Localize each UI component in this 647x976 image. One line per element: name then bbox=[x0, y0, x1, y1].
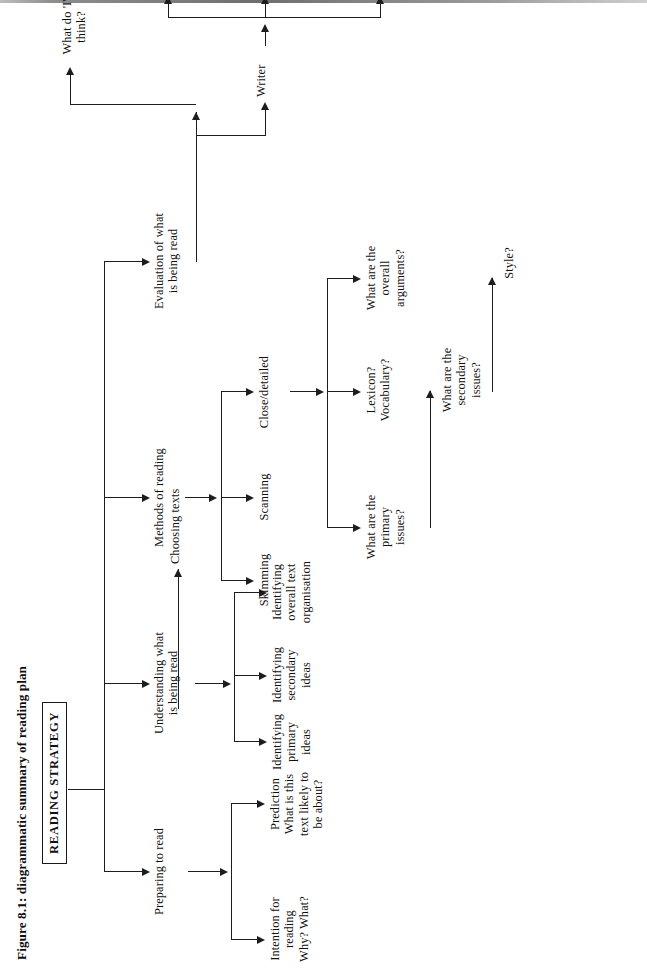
spine-evaluation-split bbox=[70, 104, 196, 105]
connector-close-overall-arguments bbox=[327, 278, 353, 279]
connector-methods-skimming bbox=[221, 580, 246, 581]
node-methods-of-reading: Methods of reading bbox=[152, 440, 166, 555]
figure-canvas: Figure 8.1: diagrammatic summary of read… bbox=[0, 0, 647, 976]
connector-root-preparing bbox=[104, 871, 142, 872]
connector-understanding-overall bbox=[234, 592, 259, 593]
connector-methods-scanning bbox=[221, 497, 246, 498]
arrow-writer-purpose bbox=[376, 0, 384, 4]
node-preparing-to-read: Preparing to read bbox=[152, 819, 166, 924]
arrow-close-stem bbox=[316, 388, 324, 396]
node-lexicon-vocabulary: Lexicon? Vocabulary? bbox=[364, 344, 393, 436]
node-identifying-overall-text-organisation: Identifying overall text organisation bbox=[270, 548, 313, 636]
connector-root-evaluation bbox=[104, 261, 142, 262]
connector-understanding-secondary bbox=[234, 675, 259, 676]
node-what-do-i-think: What do 'I' think? bbox=[60, 0, 89, 61]
connector-preparing-intention bbox=[231, 939, 257, 940]
arrow-preparing-intention bbox=[257, 936, 265, 944]
arrow-methods-skimming bbox=[246, 577, 254, 585]
node-identifying-secondary-ideas: Identifying secondary ideas bbox=[270, 633, 313, 717]
root-stem bbox=[68, 789, 104, 790]
arrow-writer-argument-q bbox=[261, 0, 269, 4]
arrow-writer-attitude bbox=[164, 0, 172, 4]
node-secondary-issues: What are the secondary issues? bbox=[440, 332, 483, 428]
lead-style-close bbox=[492, 278, 493, 392]
node-evaluation-of-what-is-being-read: Evaluation of what is being read bbox=[152, 206, 181, 316]
arrow-methods-close bbox=[246, 388, 254, 396]
arrow-writer-stem bbox=[261, 24, 269, 32]
spine-methods bbox=[221, 391, 222, 581]
connector-preparing-prediction bbox=[231, 803, 257, 804]
node-skimming: Skimming bbox=[257, 539, 271, 621]
root-node-reading-strategy: READING STRATEGY bbox=[42, 702, 67, 864]
connector-methods-stem bbox=[185, 497, 209, 498]
node-scanning: Scanning bbox=[257, 456, 271, 538]
arrow-preparing-stem bbox=[220, 868, 228, 876]
arrow-understanding-primary bbox=[259, 738, 267, 746]
node-understanding-what-is-being-read: Understanding what is being read bbox=[152, 628, 181, 738]
arrow-methods-stem bbox=[209, 494, 217, 502]
lead-secondary-issues bbox=[430, 391, 431, 528]
node-choosing-texts: Choosing texts bbox=[168, 464, 182, 564]
arrow-writer bbox=[261, 102, 269, 110]
spine-understanding bbox=[234, 592, 235, 742]
arrow-methods-scanning bbox=[246, 494, 254, 502]
root-spine bbox=[104, 262, 105, 872]
arrow-understanding-secondary bbox=[259, 672, 267, 680]
connector-close-primary-issues bbox=[327, 527, 353, 528]
arrow-root-evaluation bbox=[142, 258, 150, 266]
arrow-what-do-i-think bbox=[66, 67, 74, 75]
drop-to-writer bbox=[196, 135, 266, 136]
node-intention-for-reading: Intention for reading Why? What? bbox=[268, 882, 311, 976]
arrow-close-overall-arguments bbox=[353, 275, 361, 283]
node-primary-issues: What are the primary issues? bbox=[364, 484, 407, 570]
arrow-evaluation-split bbox=[192, 112, 200, 120]
lead-what-do-i-think bbox=[70, 71, 71, 105]
spine-writer bbox=[168, 17, 380, 18]
connector-preparing-stem bbox=[188, 871, 220, 872]
arrow-root-preparing bbox=[142, 868, 150, 876]
node-writer: Writer bbox=[254, 37, 268, 97]
arrow-style-close bbox=[488, 277, 496, 285]
arrow-root-understanding bbox=[142, 680, 150, 688]
node-close-detailed: Close/detailed bbox=[257, 345, 271, 439]
arrow-root-methods bbox=[142, 494, 150, 502]
arrow-understanding-stem bbox=[223, 680, 231, 688]
connector-close-lexicon bbox=[327, 391, 353, 392]
connector-root-understanding bbox=[104, 683, 142, 684]
connector-methods-close bbox=[221, 391, 246, 392]
spine-close-detailed bbox=[327, 278, 328, 528]
arrow-preparing-prediction bbox=[257, 800, 265, 808]
arrow-close-primary-issues bbox=[353, 524, 361, 532]
arrow-close-lexicon bbox=[353, 388, 361, 396]
node-overall-arguments: What are the overall arguments? bbox=[364, 234, 407, 322]
figure-caption: Figure 8.1: diagrammatic summary of read… bbox=[14, 666, 30, 960]
connector-understanding-primary bbox=[234, 741, 259, 742]
arrow-secondary-issues bbox=[426, 390, 434, 398]
spine-preparing bbox=[231, 803, 232, 940]
lead-choosing-texts bbox=[178, 569, 179, 709]
arrow-choosing-texts bbox=[174, 569, 182, 577]
connector-understanding-stem bbox=[195, 683, 223, 684]
connector-close-stem bbox=[290, 391, 316, 392]
connector-root-methods bbox=[104, 497, 142, 498]
node-style-close-detailed: Style? bbox=[502, 228, 516, 298]
